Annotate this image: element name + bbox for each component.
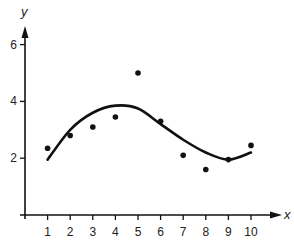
x-tick-label: 8 <box>202 225 209 239</box>
x-tick-label: 1 <box>44 225 51 239</box>
x-tick-label: 2 <box>67 225 74 239</box>
x-tick-label: 10 <box>244 225 258 239</box>
data-point <box>45 145 51 151</box>
data-point <box>248 143 254 149</box>
data-point <box>67 133 73 139</box>
x-tick-label: 5 <box>135 225 142 239</box>
x-tick-label: 6 <box>157 225 164 239</box>
x-tick-label: 9 <box>225 225 232 239</box>
x-tick-label: 4 <box>112 225 119 239</box>
data-point <box>158 118 164 124</box>
data-point <box>113 114 119 120</box>
y-tick-label: 6 <box>10 38 17 52</box>
y-tick-label: 4 <box>10 94 17 108</box>
data-point <box>90 124 96 130</box>
y-axis-label: y <box>20 4 29 19</box>
x-tick-label: 3 <box>89 225 96 239</box>
fitted-curve <box>48 105 251 159</box>
y-axis-arrow-icon <box>22 26 29 38</box>
x-axis-label: x <box>283 207 291 222</box>
data-point <box>135 70 141 76</box>
data-point <box>203 167 209 173</box>
x-tick-label: 7 <box>180 225 187 239</box>
data-point <box>180 153 186 159</box>
x-axis-arrow-icon <box>270 212 282 219</box>
scatter-plot-with-fit-curve: xy12345678910246 <box>0 0 294 244</box>
plot-area: xy12345678910246 <box>0 0 294 244</box>
data-point <box>226 157 232 163</box>
y-tick-label: 2 <box>10 151 17 165</box>
